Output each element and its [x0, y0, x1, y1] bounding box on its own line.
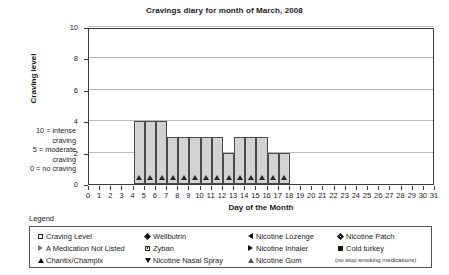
legend-label: Legend	[29, 214, 54, 223]
legend-item-label: A Medication Not Listed	[46, 244, 125, 253]
x-axis-tick	[289, 186, 290, 190]
triangle-up-marker-icon	[237, 175, 243, 180]
triangle-up-marker-icon	[203, 175, 209, 180]
legend-item-label: Wellbutrin	[153, 232, 186, 241]
triangle-right-open-icon	[35, 245, 46, 251]
x-axis-tick	[110, 186, 111, 190]
x-axis-tick	[177, 186, 178, 190]
triangle-up-marker-icon	[192, 175, 198, 180]
x-axis-tick	[412, 186, 413, 190]
y-axis-tick-label: 4	[62, 118, 78, 126]
y-axis-tick	[84, 59, 88, 60]
x-axis-tick	[334, 186, 335, 190]
square-dot-icon	[142, 246, 153, 251]
legend-item[interactable]: Craving Level	[35, 230, 125, 242]
bar	[134, 121, 145, 184]
x-axis-tick	[133, 186, 134, 190]
triangle-up-marker-icon	[281, 175, 287, 180]
bar	[145, 121, 156, 184]
bar	[212, 137, 223, 184]
legend-item[interactable]: Nicotine Inhaler	[245, 242, 314, 254]
x-axis-tick	[401, 186, 402, 190]
x-axis-tick	[200, 186, 201, 190]
bar	[167, 137, 178, 184]
y-axis-annotation-line: 0 = no craving	[2, 164, 76, 174]
bar	[189, 137, 200, 184]
x-axis-tick	[211, 186, 212, 190]
legend-item[interactable]: A Medication Not Listed	[35, 242, 125, 254]
y-axis-tick-label: 8	[62, 55, 78, 63]
x-axis-tick	[233, 186, 234, 190]
x-axis-tick	[166, 186, 167, 190]
legend-column: Nicotine LozengeNicotine InhalerNicotine…	[245, 230, 314, 266]
x-axis-tick	[255, 186, 256, 190]
y-axis-tick	[84, 154, 88, 155]
bar	[268, 153, 279, 184]
bar	[234, 137, 245, 184]
y-axis-tick	[84, 91, 88, 92]
x-axis-tick	[222, 186, 223, 190]
page-title: Cravings diary for month of March, 2008	[0, 6, 449, 15]
legend-item[interactable]: Nicotine Patch	[335, 230, 416, 242]
x-axis-tick	[311, 186, 312, 190]
bar	[256, 137, 267, 184]
bar	[245, 137, 256, 184]
legend-item[interactable]: Chantix/Champix	[35, 254, 125, 266]
bar	[156, 121, 167, 184]
legend-item-label: Zyban	[153, 244, 174, 253]
triangle-up-marker-icon	[214, 175, 220, 180]
legend-item[interactable]: Nicotine Lozenge	[245, 230, 314, 242]
x-axis-tick	[322, 186, 323, 190]
triangle-up-open-icon	[245, 258, 256, 263]
y-axis-annotation-line: craving	[2, 136, 76, 146]
x-axis-tick	[367, 186, 368, 190]
diamond-filled-icon	[142, 234, 153, 239]
triangle-up-marker-icon	[170, 175, 176, 180]
bar	[201, 137, 212, 184]
y-axis-annotation-line: 10 = intense	[2, 126, 76, 136]
y-axis-tick-label: 0	[62, 181, 78, 189]
legend-item[interactable]: Wellbutrin	[142, 230, 223, 242]
legend-box: Craving LevelA Medication Not ListedChan…	[29, 226, 432, 268]
x-axis-tick	[144, 186, 145, 190]
legend-column: Craving LevelA Medication Not ListedChan…	[35, 230, 125, 266]
x-axis-tick	[188, 186, 189, 190]
gridline	[89, 26, 433, 27]
legend-item[interactable]: Cold turkey	[335, 242, 416, 254]
legend-item-label: Craving Level	[46, 232, 92, 241]
legend-column: Nicotine PatchCold turkey(no stop smokin…	[335, 230, 416, 266]
bars-layer	[89, 29, 433, 184]
legend-item-label: Chantix/Champix	[46, 256, 103, 265]
legend-item[interactable]: Nicotine Gum	[245, 254, 314, 266]
y-axis-tick	[84, 122, 88, 123]
legend-item-label: Nicotine Nasal Spray	[153, 256, 223, 265]
legend-item-label: Nicotine Lozenge	[256, 232, 314, 241]
x-axis-tick	[423, 186, 424, 190]
legend-item-label: Nicotine Gum	[256, 256, 301, 265]
x-axis-tick	[99, 186, 100, 190]
legend-item-label: Nicotine Inhaler	[256, 244, 308, 253]
triangle-up-marker-icon	[159, 175, 165, 180]
diamond-dot-icon	[335, 234, 346, 239]
legend-item-label: Nicotine Patch	[346, 232, 394, 241]
legend-item[interactable]: Nicotine Nasal Spray	[142, 254, 223, 266]
x-axis-tick	[155, 186, 156, 190]
triangle-up-marker-icon	[181, 175, 187, 180]
square-open-icon	[35, 234, 46, 239]
plot-area	[88, 28, 434, 185]
x-axis-tick	[389, 186, 390, 190]
x-axis-tick	[88, 186, 89, 190]
x-axis-tick	[378, 186, 379, 190]
y-axis-tick	[84, 28, 88, 29]
y-axis-tick-label: 6	[62, 87, 78, 95]
x-axis-tick	[300, 186, 301, 190]
x-axis-tick	[244, 186, 245, 190]
legend-item[interactable]: Zyban	[142, 242, 223, 254]
triangle-up-filled-icon	[35, 258, 46, 263]
triangle-left-filled-icon	[245, 233, 256, 239]
legend-item-label: Cold turkey	[346, 244, 384, 253]
bar	[178, 137, 189, 184]
y-axis-title: Craving level	[29, 34, 38, 124]
triangle-right-filled-icon	[245, 245, 256, 251]
bar	[279, 153, 290, 184]
